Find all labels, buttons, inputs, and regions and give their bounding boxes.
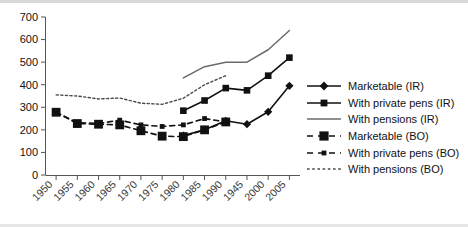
legend-swatch-solid-square-icon [306, 96, 342, 110]
x-tick-label: 1970 [114, 178, 139, 203]
data-point-marker [139, 122, 144, 127]
y-tick-label: 400 [20, 79, 38, 91]
data-point-marker [117, 118, 122, 123]
x-tick-label: 1965 [93, 178, 118, 203]
data-point-marker [96, 121, 101, 126]
data-point-marker [181, 122, 186, 127]
x-tick-label: 1990 [199, 178, 224, 203]
x-axis: 1950195519601965197019751980198519901945… [30, 176, 300, 203]
x-tick-label: 1945 [220, 178, 245, 203]
y-tick-label: 700 [20, 11, 38, 23]
chart-legend: Marketable (IR) With private pens (IR) W… [306, 78, 468, 178]
x-tick-label: 1960 [72, 178, 97, 203]
legend-item-with-private-pens-ir: With private pens (IR) [306, 95, 468, 112]
y-tick-label: 600 [20, 33, 38, 45]
y-tick-label: 500 [20, 56, 38, 68]
legend-label: Marketable (BO) [348, 129, 429, 143]
legend-swatch-solid-diamond-icon [306, 79, 342, 93]
legend-swatch-dotted-line-icon [306, 162, 342, 176]
data-point-marker [54, 110, 59, 115]
legend-item-with-pensions-ir: With pensions (IR) [306, 111, 468, 128]
chart-figure: 0100200300400500600700 19501955196019651… [0, 0, 468, 227]
y-tick-label: 200 [20, 124, 38, 136]
legend-swatch-plain-line-icon [306, 112, 342, 126]
data-point-marker [179, 132, 188, 141]
legend-label: With private pens (BO) [348, 146, 459, 160]
x-tick-label: 1955 [51, 178, 76, 203]
legend-label: With private pens (IR) [348, 96, 454, 110]
x-tick-label: 2000 [242, 178, 267, 203]
data-point-marker [223, 120, 228, 125]
data-point-marker [137, 126, 146, 135]
chart-series [180, 54, 293, 114]
chart-series-layer [52, 31, 294, 141]
legend-swatch-dashed-square-small-icon [306, 146, 342, 160]
x-tick-label: 1980 [157, 178, 182, 203]
chart-series [56, 76, 226, 105]
legend-swatch-dashed-square-large-icon [306, 129, 342, 143]
data-point-marker [244, 87, 251, 94]
legend-label: With pensions (BO) [348, 162, 443, 176]
y-tick-label: 0 [32, 169, 38, 181]
data-point-marker [222, 85, 229, 92]
legend-label: With pensions (IR) [348, 112, 438, 126]
x-tick-label: 1950 [30, 178, 55, 203]
x-tick-label: 1985 [178, 178, 203, 203]
data-point-marker [200, 125, 209, 134]
x-tick-label: 2005 [263, 178, 288, 203]
data-point-marker [286, 54, 293, 61]
legend-item-marketable-bo: Marketable (BO) [306, 128, 468, 145]
data-point-marker [158, 132, 167, 141]
data-point-marker [180, 107, 187, 114]
x-tick-label: 1975 [136, 178, 161, 203]
data-point-marker [160, 124, 165, 129]
data-point-marker [243, 120, 251, 128]
legend-item-with-private-pens-bo: With private pens (BO) [306, 144, 468, 161]
y-tick-label: 300 [20, 101, 38, 113]
y-axis: 0100200300400500600700 [20, 11, 46, 181]
legend-label: Marketable (IR) [348, 79, 424, 93]
data-point-marker [202, 116, 207, 121]
legend-item-marketable-ir: Marketable (IR) [306, 78, 468, 95]
legend-item-with-pensions-bo: With pensions (BO) [306, 161, 468, 178]
y-tick-label: 100 [20, 146, 38, 158]
data-point-marker [75, 120, 80, 125]
data-point-marker [265, 72, 272, 79]
data-point-marker [201, 97, 208, 104]
